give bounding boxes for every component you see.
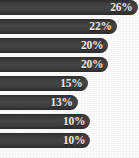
chart-row: 10% — [0, 133, 139, 148]
horizontal-bar-chart: 26% 22% 20% 20% 15% 13% 10% 10% — [0, 0, 139, 158]
chart-row: 10% — [0, 114, 139, 129]
bar-value-label: 15% — [60, 78, 87, 89]
bar-value-label: 13% — [50, 97, 77, 108]
bar-4: 20% — [0, 57, 108, 72]
bar-7: 10% — [0, 114, 90, 129]
bar-value-label: 26% — [110, 2, 137, 13]
chart-row: 20% — [0, 57, 139, 72]
bar-1: 26% — [0, 0, 138, 15]
bar-3: 20% — [0, 38, 108, 53]
bar-8: 10% — [0, 133, 90, 148]
chart-row: 26% — [0, 0, 139, 15]
bar-6: 13% — [0, 95, 78, 110]
chart-row: 15% — [0, 76, 139, 91]
bar-value-label: 20% — [81, 59, 108, 70]
bar-value-label: 10% — [63, 116, 90, 127]
chart-row: 20% — [0, 38, 139, 53]
chart-row: 22% — [0, 19, 139, 34]
bar-5: 15% — [0, 76, 88, 91]
bar-2: 22% — [0, 19, 117, 34]
bar-value-label: 10% — [63, 135, 90, 146]
bar-value-label: 20% — [81, 40, 108, 51]
chart-row: 13% — [0, 95, 139, 110]
bar-value-label: 22% — [89, 21, 116, 32]
